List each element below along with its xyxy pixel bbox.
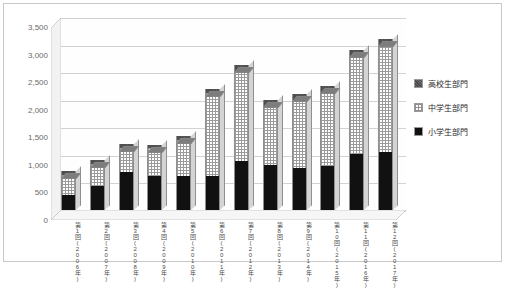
x-axis-tick-label: 第5回(2010年) xyxy=(176,222,196,268)
bar-top-cap xyxy=(61,165,82,171)
bar-column xyxy=(378,39,393,210)
bar-segment-juniorhigh xyxy=(176,140,191,176)
bar-segment-juniorhigh xyxy=(378,47,393,152)
y-axis-tick-label: 2,000 xyxy=(28,105,48,114)
y-axis: 3,5003,0002,5002,0001,5001,0005000 xyxy=(4,18,48,220)
legend-label: 中学生部門 xyxy=(428,102,468,113)
bar-column xyxy=(147,145,162,210)
bar-top-cap xyxy=(320,80,341,86)
bar-column xyxy=(90,160,105,210)
x-axis-tick-label: 第8回(2013年) xyxy=(262,222,282,268)
bar-segment-elementary xyxy=(263,165,278,210)
y-axis-tick-label: 3,500 xyxy=(28,23,48,32)
x-axis-tick-label: 第4回(2009年) xyxy=(147,222,167,268)
bar-depth-face xyxy=(307,89,312,210)
bar-segment-elementary xyxy=(176,176,191,210)
y-axis-tick-label: 500 xyxy=(35,188,48,197)
bar-top-cap xyxy=(205,83,226,89)
x-axis-tick-label: 第6回(2011年) xyxy=(205,222,225,268)
legend-item[interactable]: 小学生部門 xyxy=(414,124,502,138)
legend-label: 小学生部門 xyxy=(428,126,468,137)
plot-area xyxy=(51,18,406,220)
bar-segment-elementary xyxy=(320,166,335,210)
legend-swatch-icon xyxy=(414,79,423,88)
y-axis-tick-label: 1,000 xyxy=(28,160,48,169)
legend-swatch-icon xyxy=(414,103,423,112)
legend-item[interactable]: 中学生部門 xyxy=(414,100,502,114)
bar-segment-juniorhigh xyxy=(349,57,364,154)
legend-item[interactable]: 高校生部門 xyxy=(414,76,502,90)
bar-top-cap xyxy=(119,138,140,144)
bar-segment-elementary xyxy=(90,186,105,210)
y-axis-tick-label: 1,500 xyxy=(28,133,48,142)
x-axis-tick-label: 第10回(2015年) xyxy=(320,222,340,268)
bar-segment-elementary xyxy=(292,168,307,210)
chart-legend: 高校生部門中学生部門小学生部門 xyxy=(414,76,502,148)
bar-segment-elementary xyxy=(205,176,220,210)
x-axis-tick-label: 第1回(2006年) xyxy=(60,222,80,268)
bar-segment-elementary xyxy=(234,161,249,210)
bar-depth-face xyxy=(393,34,398,210)
bar-top-cap xyxy=(292,88,313,94)
bar-segment-elementary xyxy=(349,154,364,210)
bar-depth-face xyxy=(335,81,340,210)
legend-label: 高校生部門 xyxy=(428,78,468,89)
bar-depth-face xyxy=(220,84,225,210)
bar-top-cap xyxy=(263,94,284,100)
bar-depth-face xyxy=(364,45,369,210)
bar-depth-face xyxy=(278,95,283,210)
bar-column xyxy=(292,94,307,210)
bar-column xyxy=(119,144,134,210)
bar-segment-elementary xyxy=(378,152,393,210)
bar-segment-juniorhigh xyxy=(292,100,307,168)
y-axis-tick-label: 3,000 xyxy=(28,50,48,59)
x-axis-labels: 第1回(2006年)第2回(2007年)第3回(2008年)第4回(2009年)… xyxy=(51,222,406,268)
legend-swatch-icon xyxy=(414,127,423,136)
bar-column xyxy=(349,50,364,210)
bar-column xyxy=(61,171,76,210)
bar-column xyxy=(234,65,249,210)
bar-segment-elementary xyxy=(119,172,134,210)
chart-side-wall xyxy=(51,18,61,220)
bar-top-cap xyxy=(349,44,370,50)
bar-column xyxy=(320,86,335,210)
bar-segment-elementary xyxy=(147,176,162,210)
bar-top-cap xyxy=(90,154,111,160)
bar-segment-juniorhigh xyxy=(320,93,335,167)
bar-top-cap xyxy=(147,139,168,145)
chart-frame: 3,5003,0002,5002,0001,5001,0005000 第1回(2… xyxy=(3,3,502,262)
x-axis-tick-label: 第2回(2007年) xyxy=(89,222,109,268)
x-axis-tick-label: 第11回(2016年) xyxy=(349,222,369,268)
y-axis-tick-label: 0 xyxy=(44,216,48,225)
bar-segment-juniorhigh xyxy=(205,93,220,177)
bar-top-cap xyxy=(234,59,255,65)
chart-floor xyxy=(51,210,406,220)
bar-segment-elementary xyxy=(61,195,76,210)
bar-depth-face xyxy=(249,60,254,210)
bar-top-cap xyxy=(176,130,197,136)
gridline xyxy=(60,18,406,19)
x-axis-tick-label: 第12回(2017年) xyxy=(378,222,398,268)
x-axis-tick-label: 第3回(2008年) xyxy=(118,222,138,268)
x-axis-tick-label: 第9回(2014年) xyxy=(291,222,311,268)
x-axis-tick-label: 第7回(2012年) xyxy=(233,222,253,268)
bar-segment-juniorhigh xyxy=(234,71,249,161)
bar-top-cap xyxy=(378,33,399,39)
y-axis-tick-label: 2,500 xyxy=(28,78,48,87)
bar-column xyxy=(263,100,278,210)
bar-column xyxy=(205,89,220,210)
bar-column xyxy=(176,136,191,210)
bar-segment-juniorhigh xyxy=(263,106,278,166)
